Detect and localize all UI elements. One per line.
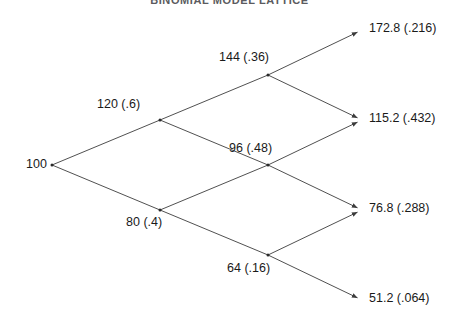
lattice-node-dot-n1u xyxy=(159,119,162,122)
lattice-edge-n2ud-to-n3c xyxy=(268,165,357,208)
lattice-edge-n2dd-to-n3d xyxy=(268,255,357,298)
lattice-edge-n1d-to-n2dd xyxy=(160,210,268,255)
lattice-edge-n2uu-to-n3a xyxy=(268,32,357,75)
lattice-node-label-n1d: 80 (.4) xyxy=(126,216,162,229)
lattice-node-label-n3a: 172.8 (.216) xyxy=(369,22,436,35)
lattice-edges xyxy=(52,32,357,298)
lattice-node-dot-n2dd xyxy=(267,254,270,257)
lattice-edge-n2ud-to-n3b xyxy=(268,122,357,165)
lattice-node-dot-n1d xyxy=(159,209,162,212)
lattice-edge-n1u-to-n2uu xyxy=(160,75,268,120)
binomial-lattice-figure: BINOMIAL MODEL LATTICE 100120 (.6)80 (.4… xyxy=(0,0,459,330)
lattice-node-dot-n2ud xyxy=(267,164,270,167)
lattice-node-dot-n0 xyxy=(51,164,54,167)
lattice-node-label-n2dd: 64 (.16) xyxy=(227,262,270,275)
lattice-node-dots xyxy=(51,74,270,257)
lattice-edge-n0-to-n1d xyxy=(52,165,160,210)
lattice-node-label-n3d: 51.2 (.064) xyxy=(369,292,429,305)
lattice-node-label-n0: 100 xyxy=(26,158,47,171)
lattice-node-label-n1u: 120 (.6) xyxy=(97,98,140,111)
lattice-edge-n0-to-n1u xyxy=(52,120,160,165)
lattice-node-label-n2ud: 96 (.48) xyxy=(229,142,272,155)
lattice-node-label-n3c: 76.8 (.288) xyxy=(369,202,429,215)
lattice-node-dot-n2uu xyxy=(267,74,270,77)
lattice-edge-n2dd-to-n3c xyxy=(268,212,357,255)
lattice-edge-n1d-to-n2ud xyxy=(160,165,268,210)
lattice-edge-n2uu-to-n3b xyxy=(268,75,357,118)
lattice-node-label-n3b: 115.2 (.432) xyxy=(369,112,435,125)
lattice-node-label-n2uu: 144 (.36) xyxy=(219,51,269,64)
